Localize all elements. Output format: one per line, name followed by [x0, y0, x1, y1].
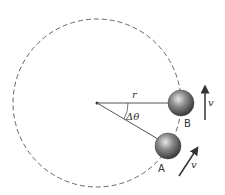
point-b-label: B [184, 118, 191, 129]
ball-a [155, 133, 181, 159]
radius-label: r [132, 89, 138, 100]
ball-b [168, 90, 194, 116]
circular-motion-diagram: r Δθ B A v v [0, 0, 225, 195]
angle-label: Δθ [125, 111, 139, 122]
velocity-a-label: v [191, 159, 197, 170]
point-a-label: A [158, 163, 165, 174]
velocity-b-label: v [208, 97, 214, 108]
